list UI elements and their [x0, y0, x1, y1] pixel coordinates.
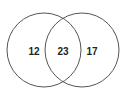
- venn-diagram: 12 23 17: [0, 0, 127, 89]
- right-only-count: 17: [86, 46, 98, 57]
- intersection-count: 23: [57, 46, 69, 57]
- left-only-count: 12: [28, 46, 40, 57]
- left-circle: [7, 13, 81, 87]
- right-circle: [45, 13, 119, 87]
